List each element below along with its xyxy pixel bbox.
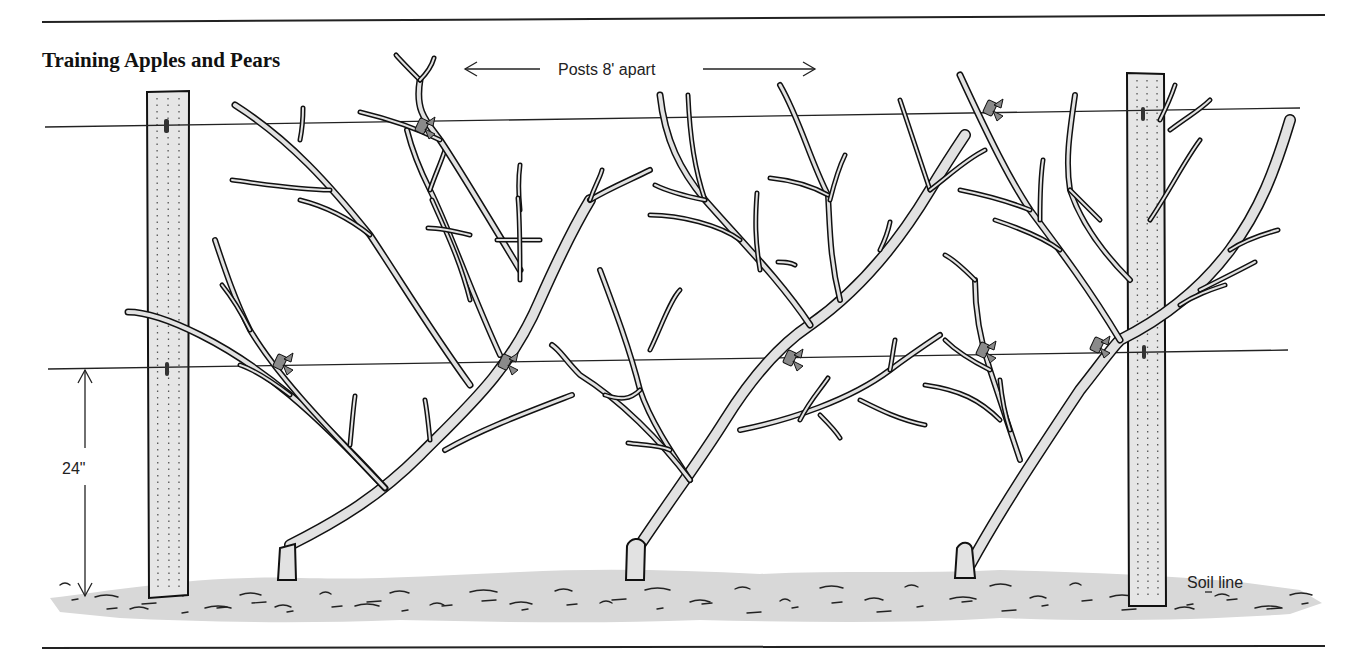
bottom-rule: [42, 646, 1325, 648]
branch: [420, 58, 434, 80]
branch: [778, 262, 795, 265]
branch: [232, 180, 330, 190]
branch: [552, 345, 690, 480]
branch: [756, 193, 760, 270]
branch: [1068, 95, 1130, 280]
tie-icon: [983, 99, 1003, 121]
post-spacing-label: Posts 8' apart: [558, 61, 656, 78]
post-spacing-dimension: Posts 8' apart: [465, 61, 815, 78]
tree-middle: [552, 85, 985, 580]
stump: [626, 539, 645, 580]
wire-height-label: 24": [62, 460, 85, 477]
branch: [650, 290, 680, 350]
branch: [432, 200, 470, 300]
upper-wire: [45, 108, 1300, 127]
branch: [1170, 100, 1210, 130]
branch: [925, 385, 1000, 420]
branch: [975, 280, 1020, 460]
branch: [945, 255, 975, 280]
branch: [860, 400, 925, 425]
trellis-diagram: Training Apples and Pears Posts 8' apart: [0, 0, 1355, 664]
diagram-title: Training Apples and Pears: [42, 48, 280, 72]
top-rule: [42, 15, 1325, 22]
branch: [235, 105, 470, 385]
branch: [430, 150, 445, 190]
branch: [600, 270, 690, 480]
branch: [660, 95, 810, 325]
trunk: [290, 200, 590, 545]
branch: [820, 415, 840, 438]
branch: [605, 390, 640, 398]
tree-left: [128, 55, 650, 580]
branch: [830, 155, 845, 200]
branch: [740, 335, 940, 430]
branch: [350, 396, 355, 445]
branch: [800, 378, 828, 420]
branch: [396, 55, 420, 80]
stump: [955, 543, 975, 578]
soil-line-label: Soil line: [1187, 574, 1243, 591]
wire-height-dimension: 24": [62, 370, 92, 596]
trees: [128, 55, 1290, 580]
left-post: [147, 91, 189, 598]
stump: [278, 544, 296, 580]
branch: [1040, 160, 1043, 220]
branch: [300, 108, 303, 140]
branch: [425, 400, 430, 440]
branch: [518, 198, 520, 280]
